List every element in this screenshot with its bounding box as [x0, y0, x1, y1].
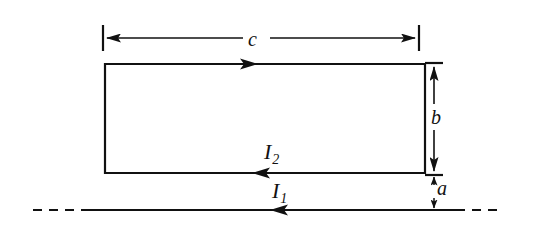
straight-wire-group: [33, 205, 502, 216]
wire-current-subscript: 1: [279, 191, 287, 206]
dimension-label-b: b: [431, 107, 441, 127]
wire-current-label: I1: [272, 180, 287, 206]
diagram-canvas: [0, 0, 534, 234]
dimension-label-a: a: [437, 178, 447, 198]
physics-diagram-figure: c b a I2 I1: [0, 0, 534, 234]
loop-current-label: I2: [264, 141, 279, 167]
dimension-c-group: [103, 25, 419, 51]
dimension-label-c: c: [248, 29, 257, 49]
loop-current-subscript: 2: [271, 152, 279, 167]
